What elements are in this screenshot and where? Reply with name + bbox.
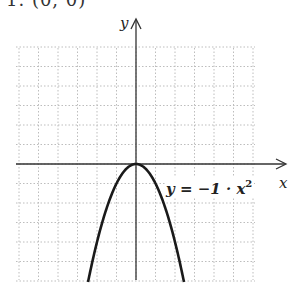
equation-label: y = −1 · x2 <box>165 178 252 198</box>
y-axis-label: y <box>119 14 129 32</box>
equation-exponent: 2 <box>245 178 252 189</box>
equation-text: y = −1 · x <box>165 180 246 198</box>
x-axis-label: x <box>279 174 288 192</box>
x-axis <box>16 159 286 169</box>
y-axis <box>131 19 141 280</box>
parabola-chart: y x y = −1 · x2 <box>0 0 298 301</box>
